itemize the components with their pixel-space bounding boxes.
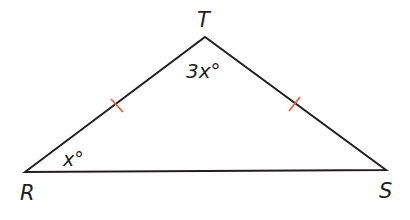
vertex-label-T: T (197, 8, 212, 32)
vertex-label-S: S (379, 179, 392, 203)
vertex-label-R: R (20, 181, 35, 205)
angle-label-R: x° (62, 148, 84, 170)
angle-label-T: 3x° (186, 59, 221, 83)
triangle-diagram: T R S 3x° x° (0, 0, 410, 220)
